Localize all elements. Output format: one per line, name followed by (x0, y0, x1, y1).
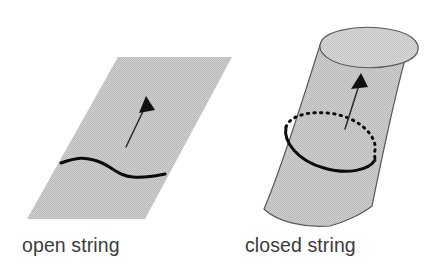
string-worldsheet-figure: open string closed string (0, 0, 447, 266)
open-string-caption: open string (22, 234, 120, 256)
figure-canvas: open string closed string (0, 0, 447, 266)
closed-string-panel: closed string (245, 27, 418, 256)
closed-string-caption: closed string (245, 234, 356, 256)
closed-string-worldsheet-top-cap (320, 27, 418, 67)
open-string-panel: open string (22, 57, 232, 256)
